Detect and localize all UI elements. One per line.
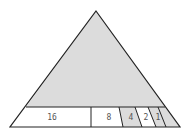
triangle-diagram: 16 8 4 2 1 xyxy=(0,0,191,137)
label-1: 1 xyxy=(156,113,161,122)
label-16: 16 xyxy=(47,113,57,122)
upper-triangle-region xyxy=(26,11,165,107)
label-8: 8 xyxy=(107,113,112,122)
label-4: 4 xyxy=(129,113,134,122)
label-2: 2 xyxy=(144,113,149,122)
